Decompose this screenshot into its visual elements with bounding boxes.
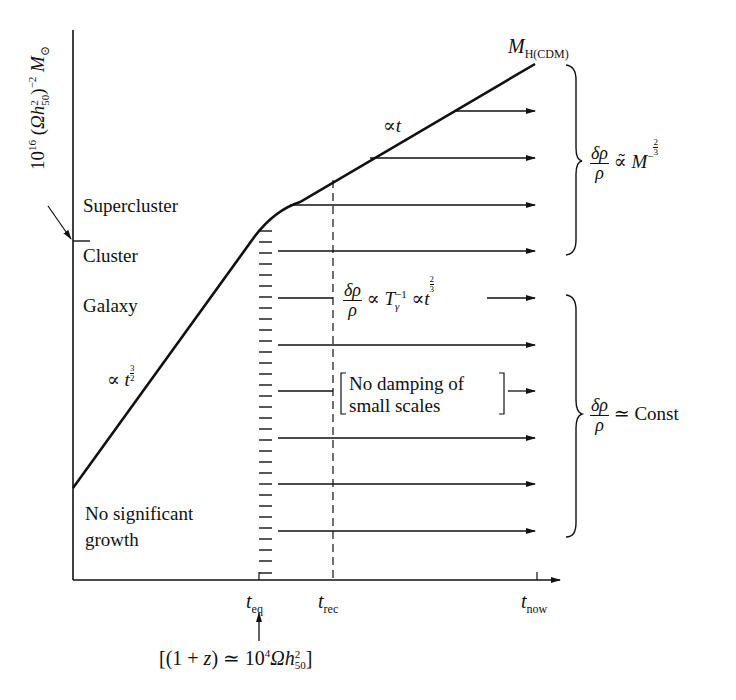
mid-growth-equation: δρρ ∝ T−1γ ∝t23 [343, 281, 434, 320]
t-eq-redshift-note: [(1 + z) ≃ 104Ωh250] [159, 648, 312, 671]
horizon-mass-curve [73, 64, 535, 488]
label-cluster: Cluster [83, 246, 138, 265]
x-tick-label-t-rec: trec [318, 591, 338, 611]
damping-note-right-bracket [499, 373, 504, 414]
label-supercluster: Supercluster [83, 196, 178, 215]
perturbation-arrows [278, 111, 535, 531]
damping-note-left-bracket [341, 373, 346, 414]
label-no-growth-1: No significant [85, 504, 193, 523]
upper-brace [566, 65, 582, 255]
upper-brace-equation: δρρ ∝̃ M−23 [590, 144, 658, 183]
damping-note-line2: small scales [349, 396, 440, 415]
diagram-canvas [0, 0, 736, 700]
x-tick-label-t-eq: teq [246, 591, 263, 611]
x-tick-label-t-now: tnow [521, 591, 547, 611]
label-no-growth-2: growth [85, 530, 139, 549]
slope-label-steep: ∝ t32 [107, 370, 134, 389]
damping-note-line1: No damping of [349, 374, 464, 393]
t-eq-hatch-marks [259, 231, 272, 573]
y-axis-label: 1016 (Ωh250)−2 M⊙ [27, 46, 51, 170]
label-galaxy: Galaxy [83, 296, 138, 315]
y-label-pointer-arrow [48, 206, 71, 239]
lower-brace [566, 295, 582, 537]
horizon-mass-label: MH(CDM) [508, 36, 569, 56]
lower-brace-equation: δρρ ≃ Const [590, 396, 679, 435]
slope-label-shallow: ∝t [383, 116, 401, 135]
